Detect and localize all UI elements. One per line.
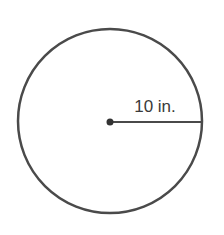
circle-diagram: 10 in. — [0, 0, 224, 235]
radius-label: 10 in. — [134, 97, 176, 116]
center-point — [107, 119, 114, 126]
